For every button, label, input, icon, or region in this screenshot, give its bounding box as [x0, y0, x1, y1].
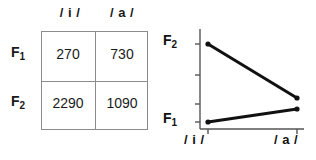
- table-cell-f2-i: 2290: [42, 93, 94, 113]
- table-cell-f1-a: 730: [96, 44, 148, 64]
- table-row-label-f1-subscript: 1: [20, 51, 26, 62]
- formant-chart-panel: F2 F1 / i / / a /: [156, 0, 316, 160]
- chart-y-axis-label-f2-text: F: [163, 32, 172, 48]
- table-column-header-i: / i /: [43, 5, 97, 20]
- table-row-label-f1-text: F: [11, 44, 20, 60]
- table-cell-f2-a: 1090: [96, 93, 148, 113]
- table-row-label-f2-subscript: 2: [20, 100, 26, 111]
- table-row-label-f1: F1: [11, 44, 39, 60]
- table-column-header-a: / a /: [95, 5, 149, 20]
- chart-point-f1-i: [205, 119, 210, 124]
- table-grid: 270 730 2290 1090: [41, 31, 148, 130]
- chart-y-axis-label-f1-subscript: 1: [172, 117, 178, 128]
- chart-x-axis-label-a: / a /: [274, 132, 298, 147]
- table-cell-f1-i: 270: [42, 44, 94, 64]
- chart-series-line-f1: [208, 109, 297, 122]
- formant-table-panel: / i / / a / F1 F2 270 730 2290 1090: [0, 0, 156, 160]
- chart-y-axis-label-f1: F1: [163, 110, 177, 126]
- chart-point-f2-a: [294, 95, 299, 100]
- chart-y-axis-label-f2: F2: [163, 32, 177, 48]
- table-row-label-f2: F2: [11, 93, 39, 109]
- table-horizontal-divider: [42, 81, 147, 82]
- chart-x-axis-label-i: / i /: [184, 132, 205, 147]
- chart-point-f1-a: [294, 106, 299, 111]
- chart-series-line-f2: [208, 44, 297, 98]
- table-row-label-f2-text: F: [11, 93, 20, 109]
- chart-y-axis-label-f1-text: F: [163, 110, 172, 126]
- figure-root: / i / / a / F1 F2 270 730 2290 1090: [0, 0, 316, 160]
- chart-point-f2-i: [205, 41, 210, 46]
- chart-y-axis-label-f2-subscript: 2: [172, 39, 178, 50]
